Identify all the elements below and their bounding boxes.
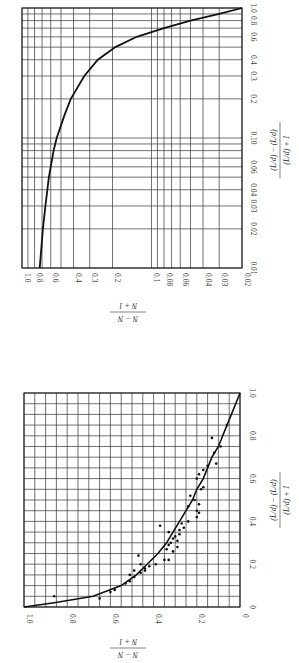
tick-label: 0.6 [111,614,120,624]
data-point [167,544,170,547]
data-point [226,424,229,427]
top-v-label-den: (L/d) + 1 [282,135,291,164]
data-point [137,554,140,557]
bottom-linear-plot: 1.00.80.60.40.2000.20.40.60.81.0 [24,388,257,623]
data-point [219,445,222,448]
data-point [202,486,205,489]
data-point [193,499,196,502]
tick-label: 0.03 [249,199,258,212]
bottom-v-label-num: (L/d) − (L/d) [269,479,278,521]
tick-label: 1.0 [248,388,257,398]
tick-label: 0.06 [181,273,190,286]
data-point [159,524,162,527]
data-point [198,503,201,506]
top-h-label-den: N + 1 [119,301,139,310]
data-point [172,550,175,553]
data-point [113,589,116,592]
tick-label: 0.6 [51,273,60,283]
tick-label: 0.2 [113,273,122,283]
data-point [98,597,101,600]
data-point [183,527,186,530]
tick-label: 0.03 [220,273,229,286]
top-h-label-num: N − N [117,314,139,323]
tick-label: 0.1 [152,273,161,283]
top-v-label-num: (L/d) − (L/d) [269,129,278,171]
tick-label: 0.6 [248,474,257,484]
data-point [163,559,166,562]
data-point [187,520,190,523]
tick-label: 0.3 [90,273,99,283]
data-point [167,559,170,562]
bottom-horizontal-axis-label: N − N N + 1 [110,637,146,659]
bottom-h-label-den: N + 1 [119,637,139,646]
tick-label: 0 [241,614,250,618]
data-point [198,473,201,476]
bottom-h-label-num: N − N [117,650,139,659]
data-point [133,569,136,572]
tick-label: 0.2 [249,94,258,104]
data-point [176,539,179,542]
tick-label: 0.4 [154,614,163,624]
data-point [180,522,183,525]
data-point [133,576,136,579]
tick-label: 0.4 [74,273,83,283]
top-vertical-axis-label: (L/d) − (L/d) (L/d) + 1 [269,122,291,178]
tick-label: 0.02 [249,222,258,235]
tick-label: 1.0 [25,614,34,624]
bottom-v-label-den: (L/d) + 1 [282,485,291,514]
tick-label: 0.04 [249,183,258,196]
tick-label: 0.10 [249,131,258,144]
data-point [187,505,190,508]
tick-label: 0.06 [249,160,258,173]
data-point [211,437,214,440]
tick-label: 1.0 [249,3,258,13]
data-point [129,574,132,577]
data-point [196,477,199,480]
data-point [213,452,216,455]
data-point [206,465,209,468]
data-point [129,580,132,583]
top-horizontal-axis-label: N − N N + 1 [110,301,146,323]
data-point [144,567,147,570]
data-point [189,494,192,497]
tick-label: 0.04 [204,273,213,286]
tick-label: 1.0 [23,273,32,283]
tick-label: 0.08 [165,273,174,286]
data-point [178,533,181,536]
data-point [170,542,173,545]
data-point [155,563,158,566]
data-point [148,565,151,568]
figure-canvas: 1.00.80.60.40.30.20.10.080.060.040.030.0… [0,0,299,663]
data-point [165,548,168,551]
data-point [53,595,56,598]
tick-label: 0.2 [248,560,257,570]
tick-label: 0.8 [249,16,258,26]
top-log-plot: 1.00.80.60.40.30.20.10.080.060.040.030.0… [22,3,258,286]
tick-label: 0.01 [249,261,258,274]
bottom-vertical-axis-label: (L/d) − (L/d) (L/d) + 1 [269,472,291,528]
tick-label: 0.4 [249,55,258,65]
tick-label: 0.8 [68,614,77,624]
data-point [176,546,179,549]
data-point [198,512,201,515]
data-point [172,537,175,540]
data-point [196,509,199,512]
data-point [200,488,203,491]
tick-label: 0.6 [249,32,258,42]
tick-label: 0.8 [248,431,257,441]
data-point [174,535,177,538]
data-point [167,531,170,534]
tick-label: 0.8 [35,273,44,283]
data-point [202,469,205,472]
data-point [139,563,142,566]
data-point [109,591,112,594]
data-point [196,516,199,519]
data-point [178,529,181,532]
tick-label: 0 [248,605,257,609]
tick-label: 0.02 [243,273,252,286]
data-point [215,462,218,465]
tick-label: 0.4 [248,517,257,527]
data-point [124,582,127,585]
data-point [139,572,142,575]
tick-label: 0.3 [249,71,258,81]
